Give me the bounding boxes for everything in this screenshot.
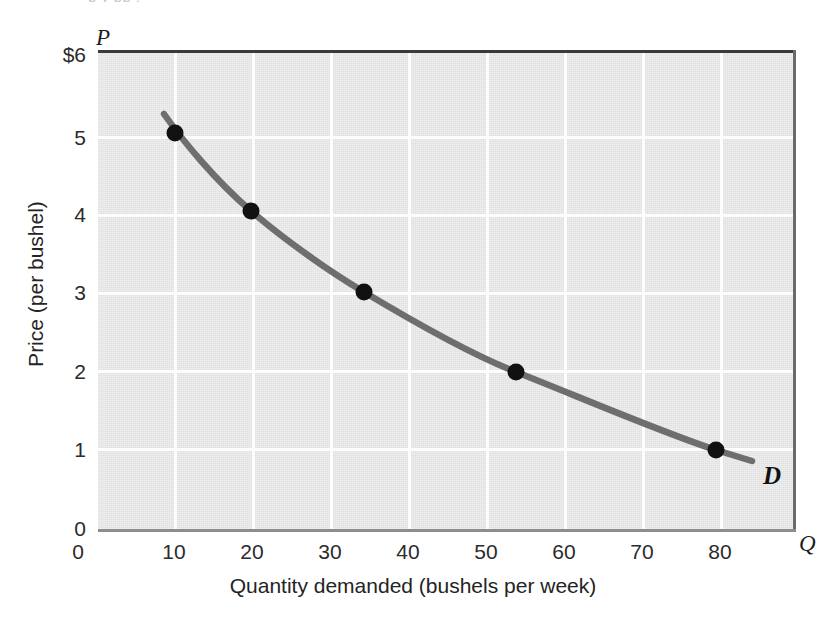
- x-tick-label-70: 70: [630, 540, 653, 564]
- gridline-horizontal: [98, 292, 793, 295]
- top-cutoff-text-fragment: p y pp ,: [88, 0, 708, 2]
- x-axis-variable-label: Q: [799, 531, 816, 557]
- x-tick-label-10: 10: [162, 540, 185, 564]
- x-tick-label-60: 60: [552, 540, 575, 564]
- gridline-horizontal: [98, 370, 793, 373]
- x-tick-label-30: 30: [318, 540, 341, 564]
- gridline-horizontal: [98, 214, 793, 217]
- x-tick-label-50: 50: [474, 540, 497, 564]
- y-tick-label-6: $6: [28, 43, 86, 67]
- gridline-vertical: [330, 53, 333, 529]
- x-axis-title: Quantity demanded (bushels per week): [0, 574, 826, 598]
- gridline-vertical: [720, 53, 723, 529]
- y-tick-label-0: 0: [28, 517, 86, 541]
- x-tick-label-0: 0: [72, 540, 84, 564]
- gridline-vertical: [408, 53, 411, 529]
- gridline-horizontal: [98, 448, 793, 451]
- y-axis-title: Price (per bushel): [24, 94, 48, 474]
- gridline-horizontal: [98, 136, 793, 139]
- x-tick-label-80: 80: [708, 540, 731, 564]
- plot-area: [98, 53, 793, 529]
- gridline-vertical: [564, 53, 567, 529]
- demand-curve-figure: p y pp , D P Q 0 1 2 3: [0, 0, 826, 618]
- gridline-vertical: [642, 53, 645, 529]
- plot-top-border: [98, 50, 795, 53]
- gridline-vertical: [252, 53, 255, 529]
- x-tick-label-20: 20: [240, 540, 263, 564]
- plot-paper-texture: [98, 53, 793, 529]
- gridline-vertical: [486, 53, 489, 529]
- y-axis-variable-label: P: [96, 25, 110, 51]
- plot-right-border: [793, 50, 796, 532]
- demand-curve-label: D: [763, 462, 781, 490]
- plot-bottom-border: [98, 529, 796, 532]
- gridline-vertical: [174, 53, 177, 529]
- x-tick-label-40: 40: [396, 540, 419, 564]
